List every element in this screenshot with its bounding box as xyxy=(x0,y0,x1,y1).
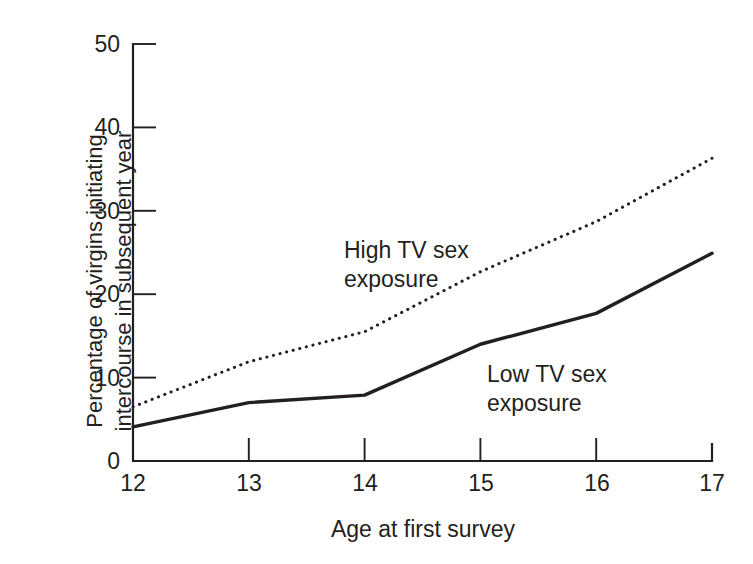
x-tick-label-16: 16 xyxy=(584,470,610,497)
y-axis-title-line-1: Percentage of virgins initiating xyxy=(80,71,109,491)
chart-figure: 50 40 30 20 10 0 12 13 14 15 16 17 Perce… xyxy=(0,0,753,564)
series-annotation-high-tv-sex-exposure: High TV sex exposure xyxy=(344,236,469,294)
x-tick-label-17: 17 xyxy=(699,470,725,497)
y-axis-title-line-2: intercourse in subsequent year xyxy=(109,71,138,491)
y-axis-title: Percentage of virgins initiating interco… xyxy=(80,71,138,491)
high-label-line-1: High TV sex xyxy=(344,236,469,265)
series-annotation-low-tv-sex-exposure: Low TV sex exposure xyxy=(487,360,607,418)
x-axis-title: Age at first survey xyxy=(133,516,713,543)
low-label-line-2: exposure xyxy=(487,389,607,418)
y-tick-label-50: 50 xyxy=(70,31,120,58)
low-label-line-1: Low TV sex xyxy=(487,360,607,389)
x-tick-label-14: 14 xyxy=(352,470,378,497)
high-label-line-2: exposure xyxy=(344,265,469,294)
x-tick-label-15: 15 xyxy=(468,470,494,497)
x-axis-ticks xyxy=(249,438,596,461)
x-tick-label-13: 13 xyxy=(236,470,262,497)
